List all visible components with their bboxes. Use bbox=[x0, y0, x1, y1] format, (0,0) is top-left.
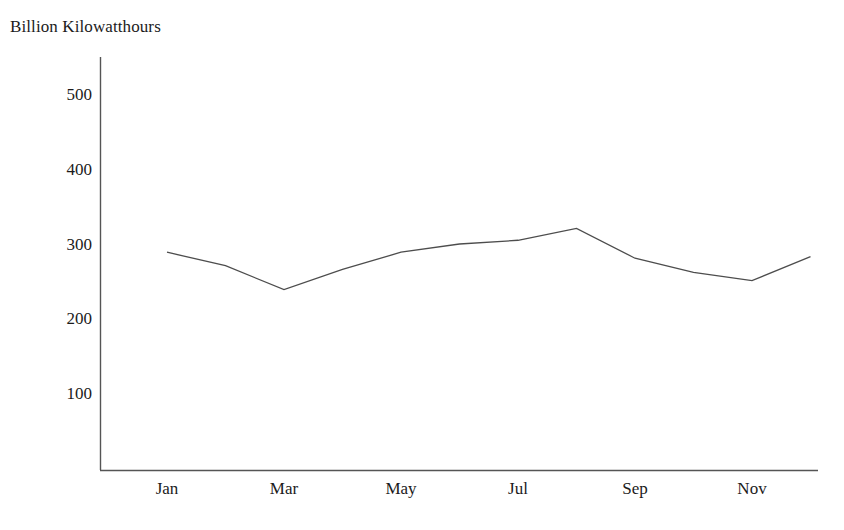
x-tick-label: May bbox=[361, 479, 441, 499]
x-tick-label: Jul bbox=[478, 479, 558, 499]
y-tick-label: 500 bbox=[22, 85, 92, 105]
x-tick-label: Nov bbox=[712, 479, 792, 499]
y-tick-label: 100 bbox=[22, 384, 92, 404]
data-series-line bbox=[167, 228, 811, 289]
x-tick-label: Mar bbox=[244, 479, 324, 499]
chart-container: Billion Kilowatthours 100200300400500 Ja… bbox=[0, 0, 844, 530]
y-tick-label: 300 bbox=[22, 235, 92, 255]
y-tick-label: 400 bbox=[22, 160, 92, 180]
line-chart-plot bbox=[0, 0, 844, 530]
x-tick-label: Sep bbox=[595, 479, 675, 499]
y-tick-label: 200 bbox=[22, 309, 92, 329]
x-tick-label: Jan bbox=[127, 479, 207, 499]
